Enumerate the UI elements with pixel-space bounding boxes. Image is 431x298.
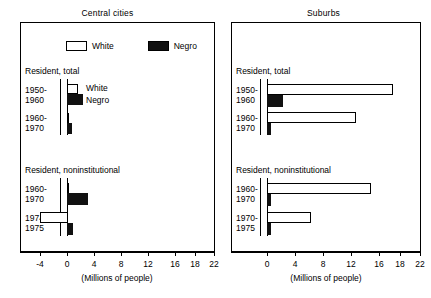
right-cat-label-1: 1950- 1960 [236, 85, 258, 105]
legend-item-white: White [66, 41, 114, 51]
left-axis-tick-label: 22 [209, 259, 218, 269]
left-cat-label-3-line1: 1960- [25, 184, 47, 194]
negro-swatch-icon [148, 41, 169, 51]
right-axis-tick-label: 8 [321, 259, 326, 269]
left-bar-total-1950-negro [67, 94, 83, 105]
right-bar-noninst-1970-white [267, 212, 311, 223]
right-group-label-total: Resident, total [236, 66, 290, 76]
left-axis-tick [94, 252, 95, 256]
right-axis-tick [400, 252, 401, 256]
right-category-rule-total [260, 79, 261, 135]
right-axis-tick-label: 12 [346, 259, 355, 269]
right-axis-tick [379, 252, 380, 256]
right-cat-label-4: 1970- 1975 [236, 213, 258, 233]
left-bar-total-1960-negro [67, 123, 72, 134]
right-bar-total-1960-white [267, 112, 356, 123]
right-panel-title: Suburbs [216, 8, 431, 18]
right-cat-label-3-line1: 1960- [236, 184, 258, 194]
left-axis-tick [195, 252, 196, 256]
left-cat-label-1-line1: 1950- [25, 85, 47, 95]
left-axis-tick [175, 252, 176, 256]
right-cat-label-3-line2: 1970 [236, 194, 255, 204]
left-axis-tick-label: 8 [119, 259, 124, 269]
right-axis-tick [323, 252, 324, 256]
right-axis-tick [351, 252, 352, 256]
left-axis-tick [40, 252, 41, 256]
left-group-label-total: Resident, total [25, 66, 79, 76]
right-axis-tick-label: 16 [374, 259, 383, 269]
left-panel-title: Central cities [0, 8, 215, 18]
left-bar-noninst-1974-white [40, 212, 68, 223]
left-bar-total-1960-white [67, 113, 69, 123]
right-cat-label-4-line1: 1970- [236, 213, 258, 223]
legend-label-negro: Negro [174, 41, 197, 51]
right-bar-total-1950-white [267, 84, 393, 95]
right-cat-label-4-line2: 1975 [236, 223, 255, 233]
inline-key-white: White [86, 83, 108, 93]
left-axis-tick-label: 16 [170, 259, 179, 269]
left-axis-tick [121, 252, 122, 256]
right-axis-tick-label: 22 [415, 259, 424, 269]
right-axis-tick-label: 4 [293, 259, 298, 269]
right-axis-tick-label: 18 [395, 259, 404, 269]
right-axis-caption: (Millions of people) [290, 273, 361, 283]
left-axis-tick [148, 252, 149, 256]
left-cat-label-1: 1950- 1960 [25, 85, 47, 105]
left-cat-label-3: 1960- 1970 [25, 184, 47, 204]
left-cat-label-3-line2: 1970 [25, 194, 44, 204]
legend: White Negro [66, 41, 197, 51]
left-axis-line [20, 252, 215, 253]
left-axis-tick [67, 252, 68, 256]
left-axis-tick-label: 0 [65, 259, 70, 269]
white-swatch-icon [66, 41, 87, 51]
right-axis-line [231, 252, 421, 253]
left-cat-label-2: 1960- 1970 [25, 113, 47, 133]
right-group-label-noninst: Resident, noninstitutional [236, 165, 331, 175]
right-bar-total-1960-negro [267, 123, 271, 135]
left-axis-tick-label: 18 [190, 259, 199, 269]
left-axis-tick-label: 12 [143, 259, 152, 269]
right-cat-label-2-line1: 1960- [236, 113, 258, 123]
left-bar-noninst-1960-white [67, 183, 69, 193]
left-bar-noninst-1960-negro [67, 193, 88, 205]
right-axis-tick [267, 252, 268, 256]
left-cat-label-2-line2: 1970 [25, 123, 44, 133]
left-bar-noninst-1974-negro [67, 223, 73, 235]
left-cat-label-1-line2: 1960 [25, 95, 44, 105]
legend-label-white: White [92, 41, 114, 51]
inline-key-negro: Negro [86, 95, 109, 105]
right-bar-noninst-1960-white [267, 183, 371, 194]
right-axis-tick [295, 252, 296, 256]
left-category-rule-noninst [60, 178, 61, 236]
right-cat-label-1-line2: 1960 [236, 95, 255, 105]
right-cat-label-2: 1960- 1970 [236, 113, 258, 133]
right-bar-noninst-1960-negro [267, 194, 271, 206]
right-cat-label-3: 1960- 1970 [236, 184, 258, 204]
right-category-rule-noninst [260, 178, 261, 236]
right-cat-label-1-line1: 1950- [236, 85, 258, 95]
left-bar-total-1950-white [67, 84, 78, 94]
left-cat-label-4-line2: 1975 [25, 223, 44, 233]
legend-item-negro: Negro [148, 41, 197, 51]
right-axis-tick [420, 252, 421, 256]
left-cat-label-2-line1: 1960- [25, 113, 47, 123]
left-axis-tick [214, 252, 215, 256]
left-axis-tick-label: 4 [92, 259, 97, 269]
right-bar-noninst-1970-negro [267, 223, 271, 235]
left-group-label-noninst: Resident, noninstitutional [25, 165, 120, 175]
right-axis-tick-label: 0 [265, 259, 270, 269]
figure-root: Central cities White Negro Resident, tot… [0, 0, 431, 298]
right-cat-label-2-line2: 1970 [236, 123, 255, 133]
left-axis-tick-label: -4 [36, 259, 44, 269]
right-bar-total-1950-negro [267, 95, 283, 107]
left-axis-caption: (Millions of people) [81, 273, 152, 283]
left-category-rule-total [60, 79, 61, 135]
